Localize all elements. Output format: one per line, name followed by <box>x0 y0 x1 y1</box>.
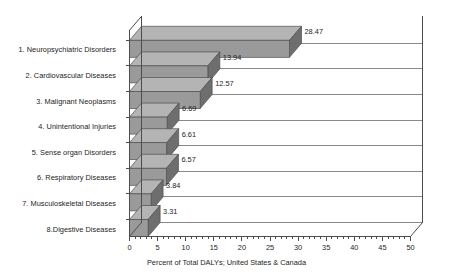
x-tick-label: 5 <box>156 243 160 252</box>
x-tick-label: 30 <box>294 243 302 252</box>
x-tick-label: 0 <box>127 243 131 252</box>
value-label: 12.57 <box>215 79 234 88</box>
value-label: 3.31 <box>163 207 177 216</box>
x-tick-label: 20 <box>238 243 246 252</box>
x-axis-title: Percent of Total DALYs; United States & … <box>0 258 453 267</box>
x-tick-label: 45 <box>378 243 386 252</box>
bar-chart: 1. Neuropsychiatric Disorders2. Cardiova… <box>0 0 453 279</box>
x-tick-label: 50 <box>406 243 414 252</box>
value-label: 3.84 <box>166 181 180 190</box>
value-label: 13.94 <box>223 53 242 62</box>
plot-area <box>0 0 453 279</box>
value-label: 6.57 <box>181 155 195 164</box>
value-label: 28.47 <box>305 27 324 36</box>
bars-group <box>130 26 302 236</box>
x-tick-label: 10 <box>182 243 190 252</box>
x-tick-label: 40 <box>350 243 358 252</box>
x-tick-label: 25 <box>266 243 274 252</box>
x-tick-label: 15 <box>210 243 218 252</box>
value-label: 6.61 <box>182 130 196 139</box>
value-label: 6.69 <box>182 104 196 113</box>
x-tick-label: 35 <box>322 243 330 252</box>
